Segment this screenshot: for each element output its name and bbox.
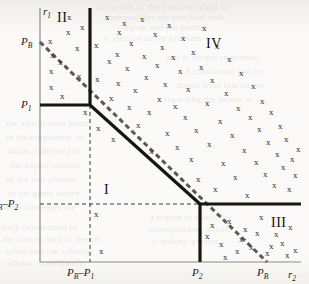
scatter-x-mark: x: [260, 97, 265, 106]
scatter-x-mark: x: [99, 247, 104, 256]
scatter-x-mark: x: [281, 163, 286, 172]
scatter-x-mark: x: [105, 13, 110, 22]
scatter-x-mark: x: [125, 64, 130, 73]
scatter-x-mark: x: [153, 30, 158, 39]
x-axis-title: r2: [288, 268, 296, 283]
scatter-x-mark: x: [183, 113, 188, 122]
scatter-x-mark: x: [288, 223, 293, 232]
scatter-x-mark: x: [163, 80, 168, 89]
scatter-x-mark: x: [117, 28, 122, 37]
scatter-x-mark: x: [207, 140, 212, 149]
scatter-x-mark: x: [293, 246, 298, 255]
scatter-x-mark: x: [239, 235, 244, 244]
scatter-x-mark: x: [236, 104, 241, 113]
figure-container: to the left of the x and the right ofine…: [0, 0, 309, 284]
scatter-x-mark: x: [147, 108, 152, 117]
scatter-x-mark: x: [181, 34, 186, 43]
scatter-x-mark: x: [165, 129, 170, 138]
scatter-x-mark: x: [263, 170, 268, 179]
scatter-x-mark: x: [140, 15, 145, 24]
scatter-x-mark: x: [275, 150, 280, 159]
scatter-x-mark: x: [248, 113, 253, 122]
scatter-x-mark: x: [95, 75, 100, 84]
scatter-x-mark: x: [210, 76, 215, 85]
scatter-x-mark: x: [221, 159, 226, 168]
scatter-x-mark: x: [49, 83, 54, 92]
scatter-x-mark: x: [274, 230, 279, 239]
scatter-x-mark: x: [280, 239, 285, 248]
scatter-x-mark: x: [175, 143, 180, 152]
scatter-x-mark: x: [191, 48, 196, 57]
scatter-x-mark: x: [96, 124, 101, 133]
scatter-x-mark: x: [171, 53, 176, 62]
scatter-x-mark: x: [285, 251, 290, 260]
scatter-x-mark: x: [242, 146, 247, 155]
scatter-x-mark: x: [284, 135, 289, 144]
scatter-x-mark: x: [60, 92, 65, 101]
scatter-x-mark: x: [205, 99, 210, 108]
scatter-x-mark: x: [58, 58, 63, 67]
scatter-x-mark: x: [67, 13, 72, 22]
scatter-x-mark: x: [136, 121, 141, 130]
scatter-x-mark: x: [167, 21, 172, 30]
scatter-x-mark: x: [205, 232, 210, 241]
scatter-x-mark: x: [213, 185, 218, 194]
scatter-x-mark: x: [227, 217, 232, 226]
scatter-x-mark: x: [142, 52, 147, 61]
scatter-x-mark: x: [233, 173, 238, 182]
y-axis-title: r1: [43, 5, 51, 20]
scatter-x-mark: x: [224, 89, 229, 98]
y-tick-label-p1: P1: [21, 98, 31, 113]
x-tick-label-p2: P2: [192, 266, 202, 281]
scatter-x-mark: x: [251, 82, 256, 91]
scatter-x-mark: x: [94, 210, 99, 219]
scatter-x-mark: x: [83, 108, 88, 117]
scatter-x-mark: x: [157, 95, 162, 104]
scatter-x-mark: x: [239, 69, 244, 78]
scatter-x-mark: x: [290, 155, 295, 164]
scatter-x-mark: x: [230, 131, 235, 140]
scatter-x-mark: x: [249, 243, 254, 252]
scatter-x-mark: x: [77, 72, 82, 81]
scatter-x-mark: x: [160, 43, 165, 52]
scatter-x-mark: x: [254, 158, 259, 167]
scatter-x-mark: x: [293, 171, 298, 180]
x-tick-label-pbp1: PB–P1: [67, 266, 94, 281]
scatter-x-mark: x: [202, 24, 207, 33]
scatter-x-mark: x: [257, 125, 262, 134]
scatter-x-mark: x: [194, 126, 199, 135]
scatter-x-mark: x: [269, 108, 274, 117]
scatter-x-mark: x: [189, 155, 194, 164]
y-tick-label-pbp2: PB–P2: [0, 197, 18, 212]
scatter-x-mark: x: [259, 213, 264, 222]
scatter-x-mark: x: [255, 229, 260, 238]
region-label-II: II: [57, 10, 67, 26]
scatter-x-mark: x: [227, 55, 232, 64]
region-label-III: III: [271, 215, 287, 231]
scatter-x-mark: x: [219, 240, 224, 249]
scatter-x-mark: x: [48, 37, 53, 46]
scatter-x-mark: x: [173, 102, 178, 111]
scatter-x-mark: x: [133, 86, 138, 95]
scatter-x-mark: x: [75, 44, 80, 53]
scatter-x-mark: x: [94, 41, 99, 50]
scatter-x-mark: x: [107, 57, 112, 66]
scatter-x-mark: x: [210, 221, 215, 230]
scatter-x-mark: x: [122, 19, 127, 28]
scatter-x-mark: x: [149, 147, 154, 156]
scatter-x-mark: x: [144, 73, 149, 82]
plot-svg: [0, 0, 309, 284]
scatter-x-mark: x: [178, 67, 183, 76]
scatter-x-mark: x: [80, 23, 85, 32]
scatter-x-mark: x: [155, 61, 160, 70]
scatter-x-mark: x: [196, 175, 201, 184]
scatter-x-mark: x: [266, 138, 271, 147]
scatter-x-mark: x: [109, 94, 114, 103]
scatter-x-mark: x: [116, 79, 121, 88]
scatter-x-mark: x: [278, 122, 283, 131]
scatter-x-mark: x: [245, 191, 250, 200]
scatter-x-mark: x: [129, 39, 134, 48]
scatter-x-mark: x: [296, 145, 301, 154]
scatter-x-mark: x: [127, 103, 132, 112]
scatter-x-mark: x: [66, 28, 71, 37]
